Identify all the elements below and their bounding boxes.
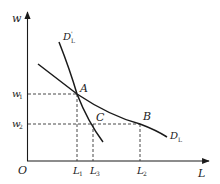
svg-text:1: 1 (79, 170, 83, 177)
curve-label-DL-prime: D ' L (62, 30, 75, 44)
origin-label: O (18, 164, 27, 177)
demand-curve-DL (38, 64, 167, 137)
dashed-guides (28, 94, 140, 161)
point-B-label: B (142, 110, 151, 123)
point-A-label: A (79, 82, 88, 95)
svg-text:L: L (178, 136, 182, 143)
svg-text:L: L (71, 37, 75, 44)
x-tick-L2: L 2 (136, 165, 147, 177)
point-C-label: C (96, 111, 105, 124)
y-axis-label: w (12, 12, 22, 25)
svg-text:': ' (71, 30, 73, 37)
svg-text:2: 2 (19, 123, 23, 130)
svg-text:D: D (62, 31, 71, 42)
y-tick-w2: w 2 (12, 118, 23, 130)
svg-text:D: D (169, 130, 178, 141)
svg-text:3: 3 (96, 170, 100, 177)
svg-text:1: 1 (19, 93, 23, 100)
x-tick-L3: L 3 (89, 165, 100, 177)
y-tick-w1: w 1 (12, 88, 23, 100)
x-tick-L1: L 1 (72, 165, 83, 177)
curve-label-DL: D L (169, 130, 182, 143)
svg-text:2: 2 (143, 170, 147, 177)
diagram-canvas: w L O w 1 w 2 L 1 L 3 L 2 A B C D ' L D … (0, 0, 220, 184)
x-axis-label: L (197, 167, 205, 180)
